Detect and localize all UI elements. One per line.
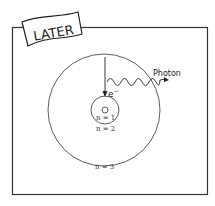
nucleus <box>102 107 108 113</box>
orbit-n3 <box>48 54 160 166</box>
photon-wave <box>107 79 166 86</box>
level-label-n2: n = 2 <box>96 125 115 133</box>
electron-label: e− <box>108 87 119 99</box>
bohr-diagram: LATER e− Photon n = 1 n = 2 n = 3 <box>0 0 215 206</box>
later-banner: LATER <box>22 12 82 46</box>
level-label-n3: n = 3 <box>95 163 114 171</box>
photon-label: Photon <box>153 69 181 78</box>
level-label-n1: n = 1 <box>96 114 115 122</box>
